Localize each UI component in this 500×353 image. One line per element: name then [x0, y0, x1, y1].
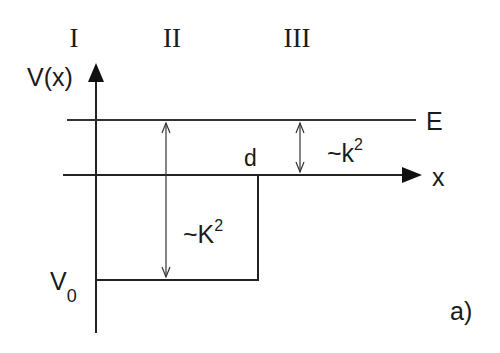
region-label-2: II — [163, 23, 181, 53]
depth-label: V0 — [50, 267, 77, 306]
potential-well — [96, 175, 258, 280]
y-axis-label: V(x) — [27, 63, 73, 91]
x-axis-label: x — [432, 163, 445, 191]
energy-label: E — [426, 107, 443, 135]
region-label-3: III — [284, 23, 311, 53]
outside-k-label: ~k2 — [327, 136, 363, 167]
inside-k-label: ~K2 — [183, 217, 223, 248]
x-axis-arrow-icon — [402, 167, 422, 183]
region-label-1: I — [70, 23, 79, 53]
panel-label: a) — [450, 297, 472, 325]
well-width-label: d — [244, 145, 257, 171]
square-well-diagram: I II III V(x) E x d V0 ~K2 ~k2 a) — [0, 0, 500, 353]
y-axis-arrow-icon — [88, 63, 104, 82]
